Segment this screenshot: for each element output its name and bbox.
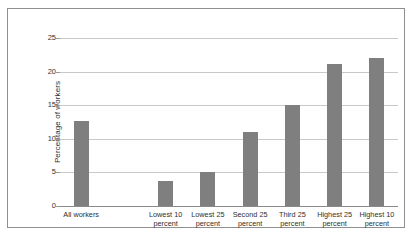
gridline-20	[60, 72, 398, 73]
gridline-5	[60, 172, 398, 173]
bar	[74, 121, 89, 206]
bar	[285, 105, 300, 206]
y-tick-mark-10	[56, 139, 60, 140]
gridline-10	[60, 139, 398, 140]
y-tick-mark-20	[56, 72, 60, 73]
x-axis-label: Lowest 10 percent	[142, 210, 190, 229]
y-tick-label-5: 5	[36, 169, 56, 177]
chart-figure: Percentage of workers 2520151050 All wor…	[0, 0, 416, 242]
y-tick-label-0: 0	[36, 202, 56, 210]
x-axis-label: Third 25 percent	[268, 210, 316, 229]
x-axis-label: Highest 10 percent	[353, 210, 401, 229]
x-axis-label: Second 25 percent	[226, 210, 274, 229]
y-tick-mark-15	[56, 105, 60, 106]
bar	[327, 64, 342, 206]
gridline-15	[60, 105, 398, 106]
y-tick-mark-25	[56, 38, 60, 39]
bar	[243, 132, 258, 206]
bar	[369, 58, 384, 206]
y-tick-label-15: 15	[36, 101, 56, 109]
y-tick-mark-5	[56, 172, 60, 173]
y-tick-label-10: 10	[36, 135, 56, 143]
x-axis-label: Highest 25 percent	[311, 210, 359, 229]
bar	[200, 172, 215, 206]
chart-border: Percentage of workers 2520151050 All wor…	[7, 8, 405, 228]
y-tick-label-25: 25	[36, 34, 56, 42]
bar	[158, 181, 173, 206]
x-axis-label: All workers	[57, 210, 105, 219]
gridline-25	[60, 38, 398, 39]
gridline-0	[60, 206, 398, 207]
x-axis-label: Lowest 25 percent	[184, 210, 232, 229]
y-axis-title: Percentage of workers	[53, 81, 62, 163]
y-tick-label-20: 20	[36, 68, 56, 76]
y-tick-mark-0	[56, 206, 60, 207]
plot-area: Percentage of workers 2520151050 All wor…	[60, 38, 398, 206]
